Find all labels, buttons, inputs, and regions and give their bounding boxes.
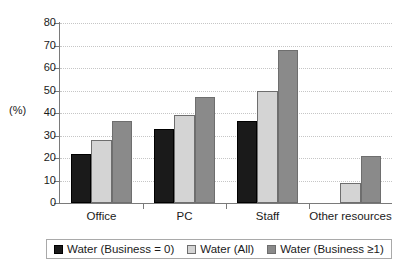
x-axis-tick: [143, 203, 144, 209]
legend-label: Water (All): [200, 243, 254, 255]
x-axis-tick: [309, 203, 310, 209]
x-axis-category-label: Office: [60, 210, 143, 223]
bar: [195, 97, 216, 203]
legend-item[interactable]: Water (All): [187, 243, 254, 255]
bar: [91, 140, 112, 203]
y-axis-unit-label: (%): [9, 105, 26, 116]
y-axis-tick-label: 60: [44, 62, 56, 73]
legend-swatch-icon: [54, 245, 63, 254]
legend-item[interactable]: Water (Business = 0): [54, 243, 174, 255]
legend-swatch-icon: [187, 245, 196, 254]
y-axis-tick-label: 10: [44, 175, 56, 186]
bar: [71, 154, 92, 204]
bar: [361, 156, 382, 203]
bar: [340, 183, 361, 203]
gridline: [60, 23, 392, 24]
legend-item[interactable]: Water (Business ≥1): [267, 243, 384, 255]
bar: [154, 129, 175, 203]
bar: [174, 115, 195, 203]
gridline: [60, 91, 392, 92]
legend-label: Water (Business = 0): [67, 243, 174, 255]
x-axis-category-label: Other resources: [309, 210, 392, 223]
chart-legend: Water (Business = 0)Water (All)Water (Bu…: [46, 239, 392, 259]
bar: [112, 121, 133, 203]
bar: [237, 121, 258, 203]
y-axis-tick-label: 20: [44, 152, 56, 163]
x-axis-category-label: PC: [143, 210, 226, 223]
y-axis-tick-label: 50: [44, 85, 56, 96]
gridline: [60, 46, 392, 47]
y-axis-tick-label: 0: [50, 197, 56, 208]
y-axis-tick-label: 70: [44, 40, 56, 51]
y-axis-tick-label: 40: [44, 107, 56, 118]
bar-chart: (%) 01020304050607080 OfficePCStaffOther…: [0, 0, 404, 272]
legend-swatch-icon: [267, 245, 276, 254]
x-axis-category-label: Staff: [226, 210, 309, 223]
legend-label: Water (Business ≥1): [280, 243, 384, 255]
y-axis-tick-label: 30: [44, 130, 56, 141]
bar: [278, 50, 299, 203]
bar: [257, 91, 278, 204]
plot-area: [60, 23, 392, 203]
gridline: [60, 136, 392, 137]
y-axis-tick-label: 80: [44, 17, 56, 28]
gridline: [60, 113, 392, 114]
gridline: [60, 68, 392, 69]
x-axis-tick: [226, 203, 227, 209]
